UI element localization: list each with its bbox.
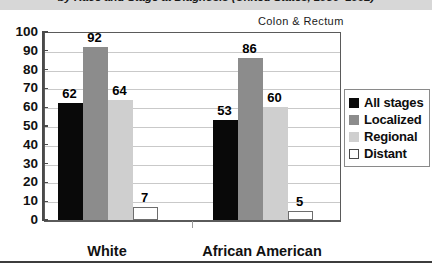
- y-axis-labels: 0102030405060708090100: [0, 0, 38, 271]
- chart-title-band: by Race and Stage at Diagnosis (United S…: [0, 0, 432, 10]
- y-axis-tick-label: 20: [4, 175, 38, 189]
- y-axis-tick: [42, 125, 48, 126]
- y-axis-tick-label: 50: [4, 119, 38, 133]
- bar-value-label: 5: [281, 195, 318, 208]
- bar: [133, 207, 158, 220]
- y-axis-tick-label: 70: [4, 81, 38, 95]
- y-axis-tick: [42, 31, 48, 32]
- y-axis-tick-label: 60: [4, 100, 38, 114]
- legend-item-label: Localized: [364, 112, 421, 127]
- legend-swatch-icon: [349, 149, 359, 159]
- legend-item: Distant: [349, 145, 426, 162]
- legend-swatch-icon: [349, 98, 359, 108]
- bar-value-label: 62: [51, 87, 88, 100]
- legend-item: Localized: [349, 111, 426, 128]
- bar: [83, 47, 108, 220]
- y-axis-tick-label: 30: [4, 157, 38, 171]
- legend-swatch-icon: [349, 115, 359, 125]
- bar-value-label: 7: [126, 191, 163, 204]
- y-axis-tick: [42, 107, 48, 108]
- bar-value-label: 92: [76, 31, 113, 44]
- y-axis-tick-label: 100: [4, 25, 38, 39]
- y-axis-tick: [42, 182, 48, 183]
- legend-item-label: Regional: [364, 129, 417, 144]
- bar-value-label: 86: [231, 42, 268, 55]
- y-axis-tick: [42, 50, 48, 51]
- chart-legend: All stagesLocalizedRegionalDistant: [344, 89, 430, 167]
- bar-value-label: 64: [101, 84, 138, 97]
- plot-area: [44, 32, 341, 220]
- chart-title: by Race and Stage at Diagnosis (United S…: [0, 0, 432, 3]
- y-axis-tick-label: 80: [4, 63, 38, 77]
- legend-item-label: Distant: [364, 146, 407, 161]
- y-axis-tick: [42, 144, 48, 145]
- bar: [213, 120, 238, 220]
- y-axis-tick: [42, 201, 48, 202]
- y-axis-tick: [42, 219, 48, 220]
- legend-item-label: All stages: [364, 95, 423, 110]
- y-axis-tick-label: 90: [4, 44, 38, 58]
- legend-item: All stages: [349, 94, 426, 111]
- bar: [238, 58, 263, 220]
- y-axis-tick: [42, 88, 48, 89]
- y-axis-tick-label: 40: [4, 138, 38, 152]
- bar: [288, 211, 313, 220]
- y-axis-tick: [42, 163, 48, 164]
- legend-swatch-icon: [349, 132, 359, 142]
- y-axis-tick-label: 10: [4, 194, 38, 208]
- legend-item: Regional: [349, 128, 426, 145]
- y-axis-tick: [42, 69, 48, 70]
- chart-annotation: Colon & Rectum: [258, 15, 344, 27]
- bar: [58, 103, 83, 220]
- bar-value-label: 60: [256, 91, 293, 104]
- y-axis-tick-label: 0: [4, 213, 38, 227]
- x-axis-category-label: African American: [182, 243, 342, 259]
- footer-divider: [0, 261, 432, 263]
- x-axis-category-label: White: [27, 243, 187, 259]
- bar-value-label: 53: [206, 104, 243, 117]
- group-separator-tick: [192, 221, 193, 228]
